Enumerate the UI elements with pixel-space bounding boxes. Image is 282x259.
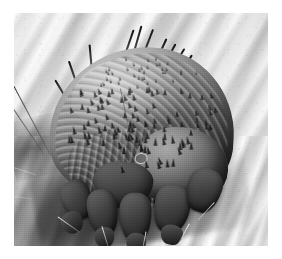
dorsal-denticle <box>100 103 105 110</box>
dorsal-denticle <box>143 134 147 143</box>
dorsal-denticle <box>212 106 217 114</box>
dorsal-denticle <box>158 61 160 66</box>
dorsal-denticle <box>147 85 151 92</box>
dorsal-denticle <box>103 124 107 131</box>
dorsal-denticle <box>199 93 204 100</box>
dorsal-denticle <box>161 66 163 71</box>
dorsal-denticle <box>152 122 156 129</box>
dorsal-denticle <box>165 158 170 167</box>
dorsal-denticle <box>122 145 126 154</box>
dorsal-denticle <box>154 137 158 146</box>
dorsal-denticle <box>174 109 179 116</box>
dorsal-denticle <box>180 70 182 75</box>
mite-body <box>39 28 245 234</box>
dorsal-denticle <box>87 120 91 127</box>
dorsal-denticle <box>171 158 175 167</box>
dorsal-denticle <box>155 56 157 61</box>
dorsal-denticle <box>136 84 139 89</box>
dorsal-denticle <box>137 75 139 80</box>
dorsal-denticle <box>100 81 102 86</box>
dorsal-denticle <box>80 103 84 110</box>
dorsal-denticle <box>117 80 120 85</box>
sem-micrograph-photo <box>14 13 268 246</box>
dorsal-denticle <box>138 141 143 150</box>
dorsal-denticle <box>188 129 192 136</box>
dorsal-denticle <box>189 140 193 149</box>
dorsal-denticle <box>101 137 106 146</box>
dorsal-denticle <box>167 60 169 65</box>
page-canvas <box>0 0 282 259</box>
dorsal-denticle <box>195 70 198 75</box>
dorsal-denticle <box>146 64 148 69</box>
dorsal-denticle <box>164 69 167 74</box>
dorsal-denticle <box>187 92 191 99</box>
